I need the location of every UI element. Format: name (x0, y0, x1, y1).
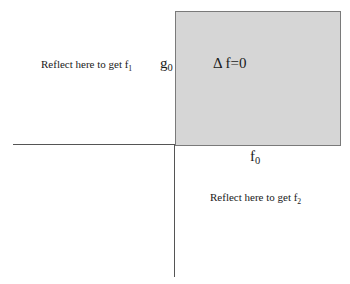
reflect-f2-annotation: Reflect here to get f2 (210, 191, 301, 203)
horizontal-axis-line (13, 144, 175, 145)
reflect-f2-text: Reflect here to get f (210, 191, 297, 203)
g0-subscript: 0 (168, 62, 173, 73)
vertical-axis-line (174, 144, 175, 277)
region-label: Δ f=0 (213, 55, 247, 72)
f0-subscript: 0 (255, 155, 260, 166)
reflect-f1-subscript: 1 (128, 64, 132, 73)
reflect-f1-annotation: Reflect here to get f1 (41, 58, 132, 70)
zero-laplacian-region (175, 11, 341, 146)
f0-label: f0 (250, 148, 260, 165)
g0-label: g0 (160, 55, 173, 72)
reflect-f1-text: Reflect here to get f (41, 58, 128, 70)
g0-base: g (160, 55, 168, 71)
delta-symbol: Δ (213, 55, 222, 71)
reflect-f2-subscript: 2 (297, 197, 301, 206)
region-equation: f=0 (222, 55, 247, 71)
